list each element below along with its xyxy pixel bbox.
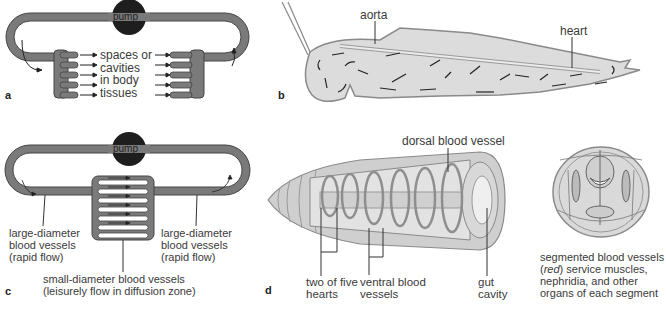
cross-section-caption: segmented blood vessels (red) service mu… bbox=[540, 251, 664, 299]
